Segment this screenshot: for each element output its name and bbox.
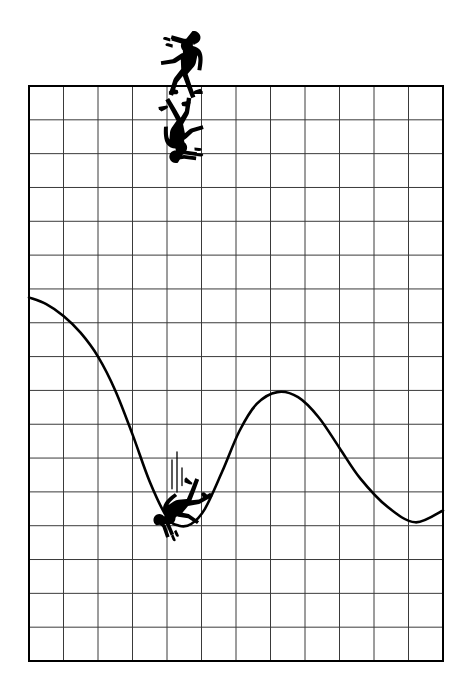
graph-paper-grid (29, 86, 443, 661)
graph-illustration-canvas (0, 0, 472, 695)
illustration-root: Man walking off the edge of a graph grid… (0, 0, 472, 695)
grid-inner-lines (29, 86, 443, 661)
falling-man-silhouette (157, 94, 208, 165)
crashed-man-silhouette (147, 472, 220, 547)
